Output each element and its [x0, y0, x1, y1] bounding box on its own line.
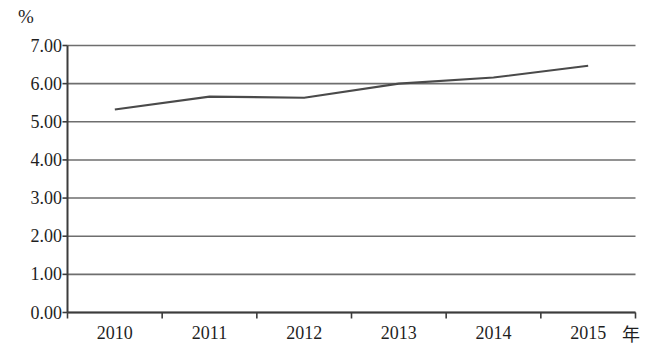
gridlines [68, 46, 636, 313]
line-chart: % 年 7.006.005.004.003.002.001.000.00 201… [0, 0, 651, 346]
x-axis-ticks [68, 313, 636, 319]
data-series-line [115, 66, 588, 110]
plot-area [0, 0, 651, 346]
